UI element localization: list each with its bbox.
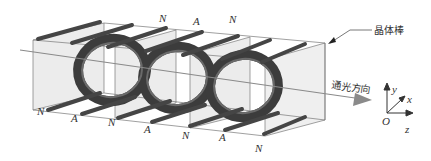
axis-label-origin: O: [382, 116, 390, 127]
axis-label-x: x: [407, 94, 412, 105]
bottom-label-n-4: N: [255, 143, 262, 154]
bottom-label-a-2: A: [144, 124, 151, 135]
bottom-label-a-1: A: [71, 113, 78, 124]
top-label-a: A: [193, 16, 200, 27]
bottom-label-n-1: N: [37, 106, 44, 117]
axis-label-z: z: [405, 124, 409, 135]
axis-label-y: y: [392, 84, 397, 95]
bottom-label-n-3: N: [182, 130, 189, 141]
crystal-rod-diagram: [0, 0, 431, 161]
crystal-rod-label: 晶体棒: [374, 26, 404, 36]
crystal-rod-pointer: [328, 30, 372, 44]
top-label-n-1: N: [159, 13, 166, 24]
bottom-label-a-3: A: [219, 132, 226, 143]
bottom-label-n-2: N: [108, 117, 115, 128]
top-label-n-2: N: [229, 14, 236, 25]
